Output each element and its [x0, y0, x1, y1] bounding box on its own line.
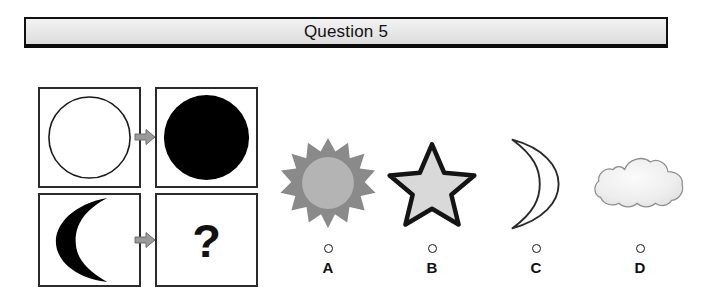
- option-d-radio[interactable]: [636, 244, 645, 253]
- answer-option-a[interactable]: A: [276, 132, 380, 282]
- crescent-outline-icon: [503, 136, 569, 232]
- analogy-matrix: ?: [38, 87, 258, 287]
- option-c-figure[interactable]: [484, 132, 588, 236]
- matrix-cell-row1-target: [155, 87, 258, 188]
- option-b-figure[interactable]: [380, 132, 484, 236]
- answer-option-b[interactable]: B: [380, 132, 484, 282]
- answer-options: A B C: [276, 132, 686, 282]
- question-mark-glyph: ?: [157, 195, 256, 285]
- option-c-radio[interactable]: [532, 244, 541, 253]
- page-title: Question 5: [304, 23, 388, 40]
- sun-icon: [280, 136, 376, 232]
- question-banner: Question 5: [24, 17, 668, 48]
- option-a-label: A: [276, 260, 380, 275]
- cloud-icon: [592, 152, 688, 216]
- star-icon: [387, 140, 477, 228]
- matrix-cell-answer-placeholder: ?: [155, 193, 258, 287]
- option-d-label: D: [588, 260, 692, 275]
- answer-option-c[interactable]: C: [484, 132, 588, 282]
- circle-filled-icon: [157, 89, 256, 186]
- option-d-figure[interactable]: [588, 132, 692, 236]
- option-c-label: C: [484, 260, 588, 275]
- crescent-filled-icon: [40, 195, 139, 285]
- matrix-cell-row2-source: [38, 193, 141, 287]
- option-a-figure[interactable]: [276, 132, 380, 236]
- matrix-cell-row1-source: [38, 87, 141, 188]
- option-a-radio[interactable]: [324, 244, 333, 253]
- right-arrow-icon: [134, 128, 156, 146]
- right-arrow-icon: [134, 231, 156, 249]
- option-b-radio[interactable]: [428, 244, 437, 253]
- answer-option-d[interactable]: D: [588, 132, 692, 282]
- option-b-label: B: [380, 260, 484, 275]
- circle-outline-icon: [40, 89, 139, 186]
